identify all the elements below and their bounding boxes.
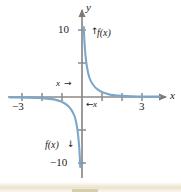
- x-tick-label-3: 3: [139, 101, 145, 112]
- y-tick-label-negative-10: −10: [50, 157, 67, 168]
- arrow-right-icon: →: [64, 79, 72, 88]
- curve-branch-upper-right: [84, 27, 160, 97]
- annotation-fx-decreasing: f(x): [45, 140, 59, 150]
- page-edge-tab: [72, 189, 98, 192]
- annotation-fx-increasing: f(x): [97, 28, 111, 38]
- arrow-down-icon: ↓: [67, 140, 75, 149]
- y-tick-label-10: 10: [58, 24, 69, 35]
- x-axis-label: x: [170, 90, 175, 101]
- annotation-x-approaching-left: x: [93, 100, 97, 109]
- annotation-x-approaching-right: x: [56, 79, 60, 88]
- graph-figure: y x 10 −10 −3 3 ↑ f(x) f(x) ↓ x → ← x: [0, 0, 181, 192]
- y-axis-label: y: [86, 2, 91, 13]
- x-tick-label-negative-3: −3: [12, 101, 24, 112]
